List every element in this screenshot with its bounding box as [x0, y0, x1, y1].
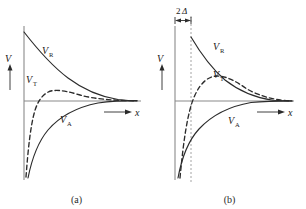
panel-b-x-axis-label: x: [287, 107, 293, 118]
panel-b-caption: (b): [153, 194, 306, 205]
panel-b-y-axis-arrow-head: [160, 64, 165, 71]
panel-b-label-vt: V T: [213, 69, 224, 82]
panel-b-dimension-arrow-right: [185, 18, 191, 22]
panel-b-x-axis-arrow-head: [278, 110, 285, 115]
panel-a-y-axis-arrow-head: [8, 64, 13, 71]
panel-a-caption: (a): [0, 194, 153, 205]
panel-a-curve-vr: [24, 32, 137, 101]
panel-b-curve-va: [178, 101, 292, 178]
panel-b-label-vr: V R: [213, 41, 225, 54]
panel-b-curve-vr: [191, 37, 292, 101]
panel-b-dimension-label-symbol: Δ: [181, 6, 187, 16]
panel-a-label-vr-sub: R: [49, 51, 54, 58]
panel-b-label-va-sub: A: [235, 121, 240, 128]
panel-b-label-vt-sub: T: [220, 75, 224, 82]
panel-b-dimension-label-number: 2: [176, 6, 181, 16]
panel-b-y-axis-label: V: [157, 53, 165, 64]
panel-b-plot: 2 Δ V x V R V T: [153, 0, 306, 209]
panel-a-label-vt-sub: T: [33, 80, 37, 87]
panel-a-curve-vt: [26, 90, 136, 177]
panel-b-dimension-arrow-left: [175, 18, 181, 22]
panel-a-label-va: V A: [60, 114, 72, 127]
panel-b-label-va: V A: [228, 115, 240, 128]
panel-a-plot: V x V R V T V: [0, 0, 153, 209]
panel-b-label-vr-sub: R: [220, 47, 225, 54]
panel-a-y-axis-label: V: [5, 53, 13, 64]
panel-b: 2 Δ V x V R V T: [153, 0, 306, 209]
panel-a: V x V R V T V: [0, 0, 153, 209]
panel-a-x-axis-label: x: [134, 107, 140, 118]
panel-a-x-axis-arrow-head: [125, 110, 132, 115]
panel-a-label-va-sub: A: [67, 120, 72, 127]
panel-a-label-vt: V T: [26, 74, 37, 87]
figure-root: V x V R V T V: [0, 0, 306, 209]
panel-b-dimension-2delta: 2 Δ: [175, 6, 191, 24]
